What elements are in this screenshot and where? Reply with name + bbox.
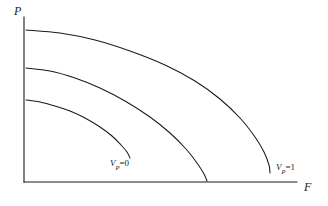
curve-label-vp-1: VP=1: [276, 163, 295, 174]
curve-label-vp-1-subscript: P: [282, 168, 286, 175]
curve-group: [26, 30, 270, 181]
curve-label-vp-0-subscript: P: [116, 164, 120, 171]
curve-label-vp-0: VP=0: [110, 159, 129, 170]
curve-label-vp-1-variable: V: [276, 162, 282, 172]
figure-container: P F VP=0 VP=1: [0, 0, 328, 206]
y-axis-label: P: [14, 5, 21, 17]
curve-label-vp-0-value: =0: [119, 158, 129, 168]
curve-label-vp-1-value: =1: [285, 162, 295, 172]
plot-canvas: [0, 0, 328, 206]
axis-group: [24, 17, 297, 182]
curve-vp-1: [26, 30, 270, 173]
curve-label-vp-0-variable: V: [110, 158, 116, 168]
x-axis-label: F: [304, 181, 311, 193]
curve-vp-0: [26, 100, 130, 158]
